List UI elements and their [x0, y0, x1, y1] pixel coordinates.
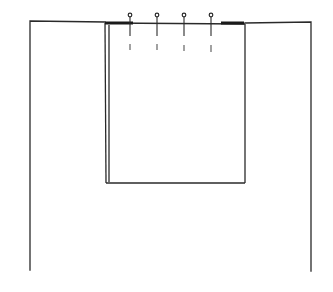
pin-head-icon: [128, 13, 132, 17]
pin-head-icon: [209, 13, 213, 17]
background: [0, 0, 333, 292]
pin-head-icon: [155, 13, 159, 17]
panel-diagram: [0, 0, 333, 292]
pin-head-icon: [182, 13, 186, 17]
